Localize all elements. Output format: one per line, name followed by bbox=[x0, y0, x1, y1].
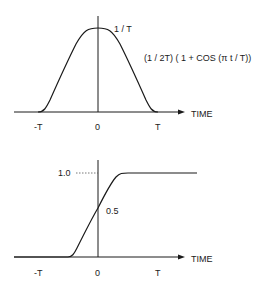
diagram-canvas: 1 / T (1 / 2T) ( 1 + COS (π t / T)) TIME… bbox=[0, 0, 259, 289]
bottom-tick-t: T bbox=[155, 268, 161, 278]
bottom-plot: 1.0 0.5 TIME -T 0 T bbox=[14, 160, 213, 278]
top-tick-neg-t: -T bbox=[34, 122, 43, 132]
top-time-label: TIME bbox=[191, 109, 213, 119]
top-tick-t: T bbox=[155, 122, 161, 132]
peak-label: 1 / T bbox=[114, 24, 132, 34]
bottom-axis-arrow-icon bbox=[178, 255, 185, 260]
level-1-label: 1.0 bbox=[58, 168, 71, 178]
level-half-label: 0.5 bbox=[106, 206, 119, 216]
top-tick-zero: 0 bbox=[95, 122, 100, 132]
bottom-tick-neg-t: -T bbox=[34, 268, 43, 278]
top-plot: 1 / T (1 / 2T) ( 1 + COS (π t / T)) TIME… bbox=[14, 16, 251, 132]
top-axis-arrow-icon bbox=[178, 110, 185, 115]
bottom-time-label: TIME bbox=[191, 254, 213, 264]
bottom-tick-zero: 0 bbox=[95, 268, 100, 278]
formula-label: (1 / 2T) ( 1 + COS (π t / T)) bbox=[144, 53, 251, 63]
